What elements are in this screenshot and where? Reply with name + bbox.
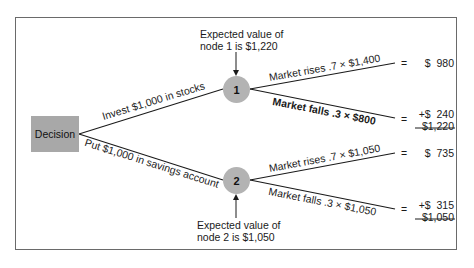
equals-2-rise: =	[401, 147, 407, 159]
decision-label: Decision	[35, 128, 75, 140]
equals-2-fall: =	[401, 203, 407, 215]
equals-1-rise: =	[401, 57, 407, 69]
decision-box: Decision	[31, 116, 79, 152]
total-1: $1,220	[422, 120, 454, 132]
chance-node-2: 2	[223, 167, 250, 194]
chance-node-1: 1	[223, 76, 250, 103]
amount-2-rise: $ 735	[425, 147, 454, 159]
note-2-line2: node 2 is $1,050	[197, 231, 280, 243]
note-1-line1: Expected value of	[200, 28, 283, 40]
amount-1-fall: +$ 240	[419, 108, 454, 120]
node-1-label: 1	[233, 84, 239, 96]
note-2-line1: Expected value of	[197, 219, 280, 231]
arrowhead-node2	[233, 194, 239, 200]
expected-value-note-2: Expected value of node 2 is $1,050	[197, 219, 280, 243]
node-2-label: 2	[233, 175, 239, 187]
expected-value-note-1: Expected value of node 1 is $1,220	[200, 28, 283, 52]
amount-2-fall: +$ 315	[419, 199, 454, 211]
total-2: $1,050	[422, 211, 454, 223]
equals-1-fall: =	[401, 113, 407, 125]
note-1-line2: node 1 is $1,220	[200, 40, 283, 52]
amount-1-rise: $ 980	[425, 57, 454, 69]
